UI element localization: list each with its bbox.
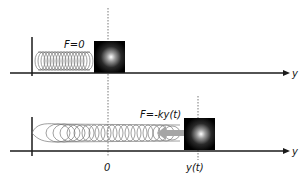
force-label-bottom: F=-ky(t) [140, 109, 181, 120]
position-label: y(t) [185, 162, 204, 173]
bottom-panel: y F=-ky(t) 0 y(t) [10, 88, 299, 173]
restoring-force-arrow [157, 126, 185, 140]
mass-block-bottom [184, 118, 215, 150]
axis-label-bottom: y [291, 146, 299, 157]
origin-label: 0 [104, 162, 110, 173]
spring-mass-diagram: y F=0 [0, 0, 300, 187]
spring-top [35, 52, 93, 70]
top-panel: y F=0 [10, 8, 299, 88]
axis-arrowhead-bottom [283, 148, 290, 154]
force-label-top: F=0 [64, 39, 85, 50]
mass-block-top [94, 41, 125, 73]
axis-arrowhead-top [283, 70, 290, 76]
axis-label-top: y [291, 68, 299, 79]
